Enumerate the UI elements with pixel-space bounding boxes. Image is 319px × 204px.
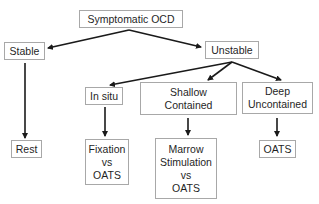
arrow-unstable-to-deep <box>232 62 281 80</box>
node-label: Rest <box>16 143 38 156</box>
node-label: Unstable <box>211 44 252 57</box>
node-stable: Stable <box>4 42 45 60</box>
node-oats: OATS <box>259 140 296 158</box>
node-label: OATS <box>264 143 292 156</box>
node-deep-uncontained: Deep Uncontained <box>242 82 313 114</box>
node-label-line2: Contained <box>165 99 213 112</box>
node-label: Symptomatic OCD <box>88 13 175 26</box>
node-rest: Rest <box>11 140 42 158</box>
node-label-line3: OATS <box>93 169 121 182</box>
node-in-situ: In situ <box>85 87 123 105</box>
node-label-line2: Stimulation <box>160 156 212 169</box>
node-label: Stable <box>10 45 40 58</box>
arrow-root-to-stable <box>48 30 129 48</box>
node-label-line2: Uncontained <box>248 98 307 111</box>
node-shallow-contained: Shallow Contained <box>140 82 237 115</box>
node-label: In situ <box>90 90 118 103</box>
node-marrow-stimulation-vs-oats: Marrow Stimulation vs OATS <box>155 138 217 199</box>
node-label-line1: Fixation <box>89 143 126 156</box>
node-label-line1: Shallow <box>170 86 207 99</box>
node-label-line4: OATS <box>172 182 200 195</box>
node-symptomatic-ocd: Symptomatic OCD <box>79 10 183 28</box>
node-label-line3: vs <box>181 169 192 182</box>
node-label-line2: vs <box>102 156 113 169</box>
node-unstable: Unstable <box>205 41 259 59</box>
arrow-root-to-unstable <box>129 30 201 47</box>
node-fixation-vs-oats: Fixation vs OATS <box>85 139 129 185</box>
node-label-line1: Marrow <box>168 143 203 156</box>
node-label-line1: Deep <box>265 85 290 98</box>
